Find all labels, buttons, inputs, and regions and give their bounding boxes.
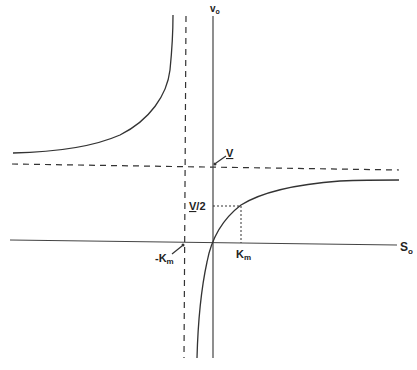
michaelis-menten-diagram: vo So V V/2 Km -Km [0, 0, 417, 370]
x-axis [10, 240, 397, 245]
hyperbola-left-branch [13, 15, 173, 153]
half-vmax-label: V/2 [189, 200, 206, 212]
vmax-asymptote [12, 164, 399, 170]
neg-km-asymptote [184, 16, 186, 358]
vmax-pointer [216, 156, 226, 163]
vmax-label: V [226, 147, 234, 159]
neg-km-pointer [172, 246, 182, 254]
x-axis-label: So [400, 240, 413, 256]
hyperbola-right-branch [197, 180, 399, 358]
neg-km-label: -Km [155, 252, 174, 266]
km-label: Km [236, 248, 251, 262]
y-axis-label: vo [210, 3, 220, 15]
